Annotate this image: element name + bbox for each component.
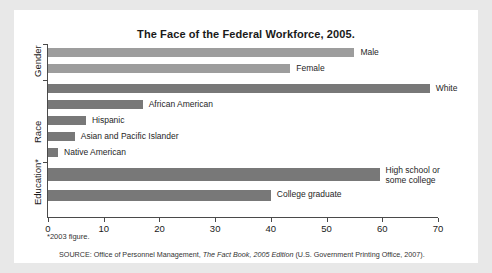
group-label: Gender <box>32 45 43 77</box>
bar <box>48 132 75 141</box>
group-label: Education* <box>32 159 43 205</box>
bar <box>48 84 430 93</box>
x-axis-tick <box>104 218 105 222</box>
bar <box>48 168 380 181</box>
footnote: *2003 figure. <box>47 232 90 241</box>
x-axis-tick <box>159 218 160 222</box>
x-axis-tick <box>271 218 272 222</box>
bar-label: College graduate <box>277 190 342 200</box>
bar <box>48 190 271 201</box>
bar <box>48 48 354 57</box>
x-axis-tick-label: 60 <box>377 223 388 234</box>
group-separator-tick <box>43 44 48 45</box>
x-axis-tick <box>327 218 328 222</box>
x-axis-tick <box>48 218 49 222</box>
source-suffix: (U.S. Government Printing Office, 2007). <box>293 250 424 259</box>
bar <box>48 116 86 125</box>
source-note: SOURCE: Office of Personnel Management, … <box>59 250 425 259</box>
x-axis-tick <box>215 218 216 222</box>
bar-chart-plot-area: 010203040506070 MaleFemaleWhiteAfrican A… <box>33 42 463 220</box>
bar-label: Female <box>296 64 324 74</box>
bar-label: Hispanic <box>92 116 125 126</box>
bar-label: Native American <box>64 148 126 158</box>
group-separator-tick <box>43 162 48 163</box>
bar <box>48 64 290 73</box>
bar-label: White <box>436 84 458 94</box>
chart-title: The Face of the Federal Workforce, 2005. <box>14 28 478 40</box>
source-prefix: SOURCE: Office of Personnel Management, <box>59 250 203 259</box>
bar-label: African American <box>149 100 213 110</box>
bar-label: High school or some college <box>386 166 448 185</box>
bar-label: Male <box>360 48 378 58</box>
x-axis-tick-label: 30 <box>210 223 221 234</box>
x-axis-tick-label: 70 <box>433 223 444 234</box>
group-separator-tick <box>43 80 48 81</box>
x-axis-tick-label: 20 <box>154 223 165 234</box>
x-axis-tick <box>438 218 439 222</box>
source-title: The Fact Book, 2005 Edition <box>203 250 294 259</box>
bar-label: Asian and Pacific Islander <box>81 132 179 142</box>
x-axis-tick <box>382 218 383 222</box>
x-axis-tick-label: 10 <box>98 223 109 234</box>
x-axis-tick-label: 50 <box>321 223 332 234</box>
value-axis-line <box>47 217 438 218</box>
group-label: Race <box>32 121 43 143</box>
bar <box>48 100 143 109</box>
figure-card: The Face of the Federal Workforce, 2005.… <box>14 10 478 263</box>
x-axis-tick-label: 40 <box>266 223 277 234</box>
bar <box>48 148 58 157</box>
